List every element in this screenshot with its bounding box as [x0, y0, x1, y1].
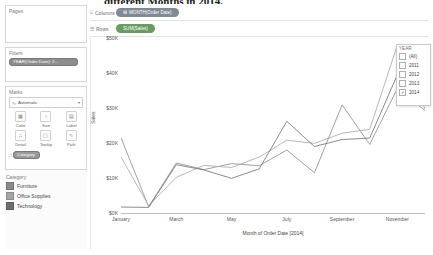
rows-pill-sum-sales[interactable]: SUM(Sales)	[116, 24, 155, 33]
x-tick-label: November	[386, 216, 409, 222]
rows-shelf-label: Rows	[96, 26, 109, 32]
tooltip-icon: ▢	[40, 130, 51, 141]
calendar-icon: ⊞	[123, 10, 127, 15]
x-axis-line	[121, 213, 425, 214]
legend-label-office-supplies: Office Supplies	[17, 193, 51, 199]
marks-button-label[interactable]: ▤ Label	[59, 110, 84, 129]
marks-button-tooltip[interactable]: ▢ Tooltip	[33, 129, 58, 148]
columns-shelf[interactable]: ⌸ Columns ⊞MONTH(Order Date)	[90, 5, 428, 21]
year-filter-title: YEAR	[397, 45, 430, 52]
x-tick-label: January	[112, 216, 130, 222]
x-tick-label: March	[169, 216, 183, 222]
legend-swatch-office-supplies	[6, 192, 14, 200]
line-series-svg	[121, 38, 425, 213]
year-option-2013-label: 2013	[409, 81, 419, 86]
size-icon: ○	[40, 111, 51, 122]
document-cutoff-title: different Months in 2014.	[104, 0, 304, 4]
y-tick-label: $30K	[106, 105, 118, 111]
year-option-2014[interactable]: ✓ 2014	[397, 88, 430, 97]
category-legend-title: Category	[6, 174, 87, 180]
year-option-2012[interactable]: 2012	[397, 70, 430, 79]
color-icon: ▦	[15, 111, 26, 122]
checkbox-icon[interactable]	[399, 62, 406, 69]
rows-shelf-label-wrap: ☰ Rows	[90, 26, 116, 32]
color-shelf[interactable]: ∷ Category	[9, 151, 83, 159]
x-axis-tick-labels: JanuaryMarchMayJulySeptemberNovember	[121, 216, 425, 226]
chevron-down-icon: ▾	[78, 100, 80, 105]
marks-card-title: Marks	[6, 87, 86, 96]
filters-card-title: Filters	[6, 48, 86, 57]
checkbox-checked-icon[interactable]: ✓	[399, 89, 406, 96]
color-shelf-pill-category[interactable]: Category	[13, 151, 40, 159]
marks-button-path[interactable]: ∿ Path	[59, 129, 84, 148]
y-tick-label: $20K	[106, 140, 118, 146]
category-legend: Category Furniture Office Supplies Techn…	[5, 174, 87, 216]
x-tick-label: May	[227, 216, 236, 222]
legend-swatch-furniture	[6, 182, 14, 190]
year-option-2011[interactable]: 2011	[397, 61, 430, 70]
marks-button-color-label: Color	[8, 123, 33, 128]
filter-pill-year-order-date[interactable]: YEAR(Order Date): 2...	[9, 58, 78, 66]
year-option-all-label: (All)	[409, 54, 417, 59]
legend-item-office-supplies[interactable]: Office Supplies	[6, 192, 87, 200]
marks-button-tooltip-label: Tooltip	[33, 142, 58, 147]
line-mark-icon: ∿	[12, 100, 16, 106]
detail-icon: ∴	[15, 130, 26, 141]
marks-button-color[interactable]: ▦ Color	[8, 110, 33, 129]
filters-card[interactable]: Filters YEAR(Order Date): 2...	[5, 47, 87, 82]
legend-label-furniture: Furniture	[17, 183, 37, 189]
year-option-2013[interactable]: 2013	[397, 79, 430, 88]
columns-shelf-label-wrap: ⌸ Columns	[90, 9, 116, 16]
pages-card-title: Pages	[6, 6, 86, 15]
marks-button-detail-label: Detail	[8, 142, 33, 147]
legend-item-furniture[interactable]: Furniture	[6, 182, 87, 190]
checkbox-icon[interactable]	[399, 80, 406, 87]
line-series-furniture	[121, 88, 425, 206]
year-option-2014-label: 2014	[409, 90, 419, 95]
left-sidebar: Pages Filters YEAR(Order Date): 2... Mar…	[5, 5, 87, 249]
marks-button-grid: ▦ Color ○ Size ▤ Label ∴ Detail ▢ Tool	[8, 110, 84, 148]
chart-plot-area: Sales $0K$10K$20K$30K$40K$50K JanuaryMar…	[90, 38, 429, 249]
checkbox-icon[interactable]	[399, 71, 406, 78]
columns-icon: ⌸	[90, 9, 93, 16]
checkbox-icon[interactable]	[399, 53, 406, 60]
y-tick-label: $50K	[106, 35, 118, 41]
legend-item-technology[interactable]: Technology	[6, 202, 87, 210]
chart-canvas	[121, 38, 425, 213]
year-option-2012-label: 2012	[409, 72, 419, 77]
y-tick-label: $10K	[106, 175, 118, 181]
rows-shelf[interactable]: ☰ Rows SUM(Sales)	[90, 21, 428, 37]
x-axis-title: Month of Order Date [2014]	[121, 230, 425, 236]
marks-button-label-label: Label	[59, 123, 84, 128]
y-tick-label: $40K	[106, 70, 118, 76]
columns-shelf-label: Columns	[95, 10, 115, 16]
x-tick-label: September	[330, 216, 354, 222]
marks-button-size[interactable]: ○ Size	[33, 110, 58, 129]
year-option-all[interactable]: (All)	[397, 52, 430, 61]
y-axis-tick-labels: $0K$10K$20K$30K$40K$50K	[93, 38, 119, 213]
mark-type-dropdown[interactable]: ∿ Automatic ▾	[9, 97, 83, 108]
year-option-2011-label: 2011	[409, 63, 419, 68]
year-filter-card[interactable]: YEAR (All) 2011 2012 2013 ✓ 2014	[396, 44, 431, 106]
rows-icon: ☰	[90, 26, 94, 32]
marks-button-path-label: Path	[59, 142, 84, 147]
legend-swatch-technology	[6, 202, 14, 210]
pages-card[interactable]: Pages	[5, 5, 87, 43]
columns-pill-label: MONTH(Order Date)	[129, 10, 172, 15]
tableau-worksheet: different Months in 2014. Pages Filters …	[0, 0, 433, 255]
marks-button-size-label: Size	[33, 123, 58, 128]
legend-label-technology: Technology	[17, 203, 42, 209]
path-icon: ∿	[66, 130, 77, 141]
x-tick-label: July	[282, 216, 291, 222]
marks-card[interactable]: Marks ∿ Automatic ▾ ▦ Color ○ Size ▤ Lab…	[5, 86, 87, 170]
label-icon: ▤	[66, 111, 77, 122]
marks-button-detail[interactable]: ∴ Detail	[8, 129, 33, 148]
mark-type-value: Automatic	[18, 100, 38, 105]
drag-handle-icon: ∷	[9, 152, 11, 158]
columns-pill-month-order-date[interactable]: ⊞MONTH(Order Date)	[116, 8, 179, 17]
